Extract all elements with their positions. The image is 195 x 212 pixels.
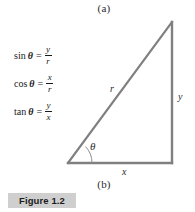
figure-caption-box: Figure 1.2 bbox=[8, 193, 76, 208]
formula-tan-fraction: y x bbox=[45, 101, 52, 122]
angle-theta-label: θ bbox=[90, 140, 95, 152]
formula-cos-denominator: r bbox=[47, 84, 53, 94]
formula-cos-fraction: x r bbox=[46, 73, 53, 94]
formula-tan: tan θ = y x bbox=[14, 97, 70, 125]
hypotenuse-line bbox=[68, 22, 172, 163]
formula-sin-equals: = bbox=[36, 50, 42, 61]
base-side-label: x bbox=[122, 166, 126, 177]
figure-1-2: (a) r y x θ sin θ = y r cos θ = x r bbox=[0, 0, 195, 212]
panel-label-b: (b) bbox=[84, 178, 124, 190]
vertical-side-label: y bbox=[178, 91, 182, 102]
formula-sin-fraction: y r bbox=[45, 45, 52, 66]
formula-sin-denominator: r bbox=[45, 56, 51, 66]
formula-tan-denominator: x bbox=[46, 112, 52, 122]
trig-formula-list: sin θ = y r cos θ = x r tan θ = y bbox=[14, 41, 70, 125]
formula-sin: sin θ = y r bbox=[14, 41, 70, 69]
formula-tan-name: tan bbox=[14, 106, 26, 117]
formula-sin-name: sin bbox=[14, 50, 26, 61]
formula-cos-angle: θ bbox=[29, 78, 34, 89]
formula-tan-angle: θ bbox=[28, 106, 33, 117]
formula-cos-name: cos bbox=[14, 78, 27, 89]
formula-sin-angle: θ bbox=[28, 50, 33, 61]
formula-cos: cos θ = x r bbox=[14, 69, 70, 97]
formula-sin-numerator: y bbox=[45, 45, 51, 55]
hypotenuse-label: r bbox=[110, 83, 114, 94]
formula-cos-numerator: x bbox=[47, 73, 53, 83]
formula-tan-numerator: y bbox=[46, 101, 52, 111]
formula-cos-equals: = bbox=[38, 78, 44, 89]
figure-caption-text: Figure 1.2 bbox=[19, 195, 65, 206]
formula-tan-equals: = bbox=[36, 106, 42, 117]
